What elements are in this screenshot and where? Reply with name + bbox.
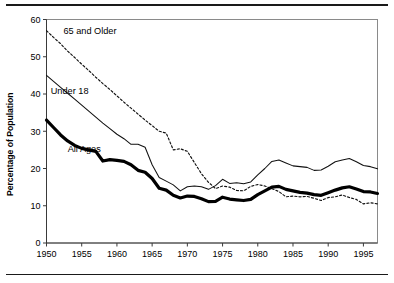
axis-lines (47, 20, 378, 244)
x-tick-label: 1960 (107, 249, 127, 259)
y-axis-title: Percentage of Population (5, 92, 15, 196)
figure-container: 0102030405060 19501955196019651970197519… (0, 0, 394, 283)
y-tick-label: 50 (30, 52, 40, 62)
x-tick-label: 1965 (142, 249, 162, 259)
y-tick-label: 0 (35, 238, 40, 248)
x-axis-tick-labels: 1950195519601965197019751980198519901995 (36, 249, 373, 259)
poverty-rate-line-chart: 0102030405060 19501955196019651970197519… (0, 0, 394, 283)
plot-frame (47, 20, 378, 244)
chart-plot-area: 0102030405060 19501955196019651970197519… (0, 0, 394, 283)
y-tick-label: 10 (30, 201, 40, 211)
x-tick-label: 1990 (318, 249, 338, 259)
x-tick-label: 1985 (283, 249, 303, 259)
series-annotation: All Ages (68, 144, 102, 154)
x-tick-label: 1955 (72, 249, 92, 259)
y-tick-label: 60 (30, 15, 40, 25)
x-axis-ticks (47, 243, 364, 247)
series-line-under-18 (47, 75, 378, 190)
y-axis-tick-labels: 0102030405060 (30, 15, 40, 249)
series-line-all-ages (47, 120, 378, 202)
x-tick-label: 1970 (177, 249, 197, 259)
y-tick-label: 20 (30, 164, 40, 174)
y-tick-label: 30 (30, 127, 40, 137)
y-axis-ticks (43, 20, 47, 244)
series-annotation: 65 and Older (63, 26, 116, 36)
x-tick-label: 1980 (248, 249, 268, 259)
x-tick-label: 1975 (213, 249, 233, 259)
series-annotation: Under 18 (51, 86, 89, 96)
x-tick-label: 1995 (353, 249, 373, 259)
y-tick-label: 40 (30, 89, 40, 99)
x-tick-label: 1950 (36, 249, 56, 259)
